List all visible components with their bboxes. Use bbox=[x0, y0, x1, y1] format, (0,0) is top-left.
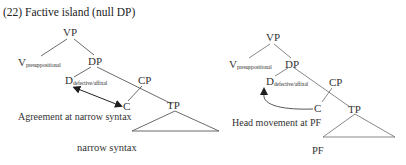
right-node-v-presuppositional: Vpresuppositional bbox=[229, 59, 272, 71]
right-node-v-subscript: presuppositional bbox=[237, 64, 272, 70]
tree-branches bbox=[0, 0, 406, 165]
left-node-d-subscript: defective/affixal bbox=[73, 80, 107, 86]
left-annotation: Agreement at narrow syntax bbox=[18, 112, 132, 122]
right-node-v-base: V bbox=[229, 58, 237, 70]
left-node-v-base: V bbox=[18, 56, 26, 68]
left-node-d-base: D bbox=[65, 74, 73, 86]
right-node-d-base: D bbox=[266, 75, 274, 87]
right-node-tp: TP bbox=[348, 104, 361, 115]
right-node-d-defective-affixal: Ddefective/affixal bbox=[266, 76, 308, 88]
left-caption: narrow syntax bbox=[77, 143, 137, 154]
left-node-dp: DP bbox=[88, 56, 102, 67]
right-caption: PF bbox=[312, 146, 324, 157]
right-node-dp: DP bbox=[285, 59, 299, 70]
left-node-v-presuppositional: Vpresuppositional bbox=[18, 57, 61, 69]
left-node-d-defective-affixal: Ddefective/affixal bbox=[65, 75, 107, 87]
left-node-tp: TP bbox=[167, 100, 180, 111]
right-node-c: C bbox=[314, 103, 321, 114]
right-annotation: Head movement at PF bbox=[232, 118, 321, 128]
right-node-cp: CP bbox=[329, 77, 342, 88]
right-node-vp: VP bbox=[266, 32, 280, 43]
left-node-cp: CP bbox=[138, 75, 151, 86]
head-movement-arrow bbox=[264, 89, 313, 109]
right-node-d-subscript: defective/affixal bbox=[274, 81, 308, 87]
left-node-v-subscript: presuppositional bbox=[26, 62, 61, 68]
agreement-arrow bbox=[78, 89, 121, 106]
left-node-vp: VP bbox=[63, 27, 77, 38]
